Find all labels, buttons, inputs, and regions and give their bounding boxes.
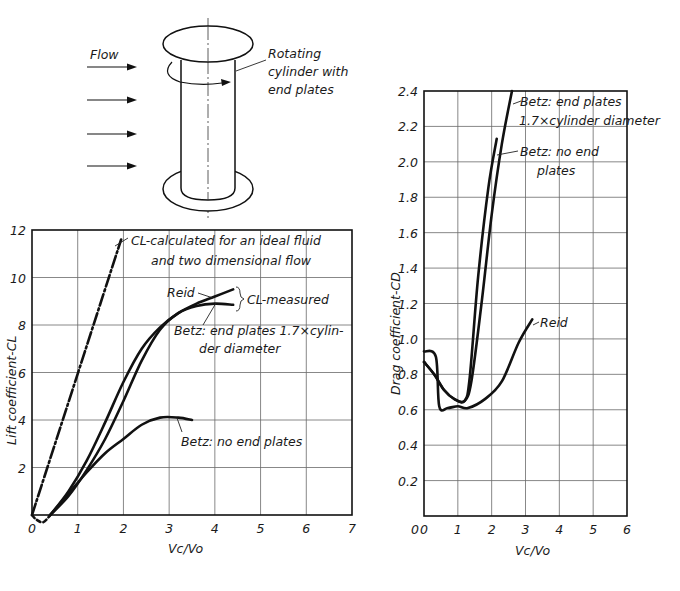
lift-annotation-ideal-2: and two dimensional flow	[151, 253, 312, 268]
figure-canvas: Flow Rotating cylinder with end plates	[0, 0, 680, 591]
arrow-icon	[87, 97, 137, 104]
x-tick-label: 2	[119, 521, 127, 536]
y-tick-label: 12	[10, 223, 26, 238]
x-tick-label: 5	[589, 522, 597, 537]
x-tick-label: 7	[348, 521, 356, 536]
data-series-line	[50, 417, 192, 515]
drag-y-axis-label: Drag coefficient-CD	[388, 272, 403, 395]
x-tick-label: 3	[522, 522, 530, 537]
drag-annotation-betz-no-end-2: plates	[536, 163, 576, 178]
lift-coefficient-chart: 0123456724681012 CL-calculated for an id…	[4, 223, 356, 556]
y-tick-label: 4	[18, 413, 26, 428]
data-series-line	[32, 240, 121, 516]
drag-annotation-reid: Reid	[540, 315, 568, 330]
lift-annotation-measured: CL-measured	[247, 292, 329, 307]
y-tick-label: 10	[10, 271, 26, 286]
arrow-icon	[87, 64, 137, 71]
x-tick-label: 5	[257, 521, 265, 536]
lift-x-axis-label: Vc/Vo	[168, 541, 203, 556]
x-tick-label: 0	[420, 522, 428, 537]
drag-annotation-betz-end-plates-1: Betz: end plates	[520, 94, 622, 109]
cylinder-icon	[163, 18, 253, 218]
x-tick-label: 2	[488, 522, 496, 537]
x-tick-label: 1	[74, 521, 82, 536]
data-series-line	[424, 91, 512, 402]
y-tick-label: 1.8	[398, 190, 418, 205]
y-tick-label: 6	[18, 366, 26, 381]
lift-annotation-reid: Reid	[167, 285, 195, 300]
arrow-icon	[87, 163, 137, 170]
y-tick-label: 0.6	[398, 403, 418, 418]
y-tick-label: 2.0	[398, 155, 418, 170]
lift-tick-labels: 0123456724681012	[10, 223, 356, 536]
y-tick-label: 8	[18, 318, 26, 333]
y-tick-label: 2	[18, 461, 26, 476]
x-tick-label: 4	[211, 521, 219, 536]
drag-annotation-betz-no-end-1: Betz: no end	[520, 144, 599, 159]
y-tick-label: 2.2	[398, 119, 418, 134]
lift-annotation-betz-end-plates-1: Betz: end plates 1.7×cylin-	[174, 323, 344, 338]
y-tick-label: 1.6	[398, 226, 418, 241]
x-tick-label: 3	[165, 521, 173, 536]
arrow-icon	[87, 131, 137, 138]
drag-curves	[424, 91, 532, 411]
cylinder-label-line-3: end plates	[268, 82, 334, 97]
x-tick-label: 6	[302, 521, 310, 536]
drag-annotation-betz-end-plates-2: 1.7×cylinder diameter	[519, 113, 661, 128]
x-tick-label: 6	[623, 522, 631, 537]
lift-y-axis-label: Lift coefficient-CL	[4, 335, 19, 445]
lift-annotation-ideal-1: CL-calculated for an ideal fluid	[131, 233, 321, 248]
lift-curves	[32, 240, 233, 523]
cylinder-label-line-2: cylinder with	[268, 64, 348, 79]
y-tick-label: 0.2	[398, 474, 418, 489]
cylinder-label-line-1: Rotating	[268, 46, 321, 61]
drag-x-axis-label: Vc/Vo	[515, 543, 550, 558]
y-tick-label: 0.4	[398, 438, 418, 453]
lift-annotation-betz-no-end-plates: Betz: no end plates	[181, 434, 303, 449]
x-tick-label: 0	[411, 522, 419, 537]
y-tick-label: 2.4	[398, 84, 418, 99]
x-tick-label: 4	[555, 522, 563, 537]
x-tick-label: 1	[454, 522, 462, 537]
drag-coefficient-chart: 01234560.20.40.60.81.01.21.41.61.82.02.2…	[388, 84, 661, 558]
x-tick-label: 0	[28, 521, 36, 536]
lift-annotation-betz-end-plates-2: der diameter	[199, 341, 281, 356]
flow-label: Flow	[90, 47, 119, 62]
cylinder-diagram: Flow Rotating cylinder with end plates	[87, 18, 348, 218]
flow-arrows	[87, 64, 137, 170]
